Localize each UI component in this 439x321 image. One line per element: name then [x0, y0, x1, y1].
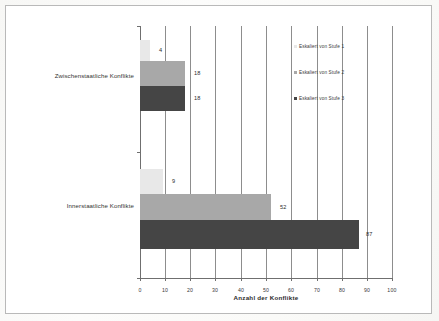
legend-label-stufe3: Eskaliert von Stufe 3	[299, 96, 344, 101]
legend-swatch-stufe1-icon	[294, 45, 297, 48]
y-axis-stub-middle	[137, 152, 140, 153]
tick-50	[266, 278, 267, 281]
tick-label-20: 20	[187, 287, 193, 293]
tick-label-60: 60	[288, 287, 294, 293]
bar-label-innerstaatliche-stufe1: 9	[172, 178, 175, 184]
legend-label-stufe1: Eskaliert von Stufe 1	[299, 44, 344, 49]
category-label-zwischenstaatliche: Zwischenstaatliche Konflikte	[14, 72, 134, 79]
tick-label-70: 70	[314, 287, 320, 293]
legend-item-stufe2: Eskaliert von Stufe 2	[294, 70, 344, 75]
tick-80	[342, 278, 343, 281]
legend-swatch-stufe2-icon	[294, 71, 297, 74]
tick-label-10: 10	[162, 287, 168, 293]
bar-innerstaatliche-stufe1	[140, 169, 163, 194]
tick-label-50: 50	[263, 287, 269, 293]
tick-label-100: 100	[387, 287, 396, 293]
tick-label-90: 90	[364, 287, 370, 293]
bar-innerstaatliche-stufe3	[140, 220, 359, 249]
legend-swatch-stufe3-icon	[294, 97, 297, 100]
x-axis-title: Anzahl der Konflikte	[140, 294, 392, 301]
legend-item-stufe3: Eskaliert von Stufe 3	[294, 96, 344, 101]
gridline-90	[367, 26, 368, 278]
tick-label-0: 0	[138, 287, 141, 293]
tick-70	[317, 278, 318, 281]
bar-zwischenstaatliche-stufe3	[140, 86, 185, 111]
tick-40	[241, 278, 242, 281]
tick-100	[392, 278, 393, 281]
tick-10	[165, 278, 166, 281]
tick-label-80: 80	[339, 287, 345, 293]
scanned-page: 4 18 18 9 52 87 Zwischenstaatliche Konfl…	[0, 0, 439, 321]
tick-90	[367, 278, 368, 281]
bar-zwischenstaatliche-stufe2	[140, 61, 185, 86]
figure-frame: 4 18 18 9 52 87 Zwischenstaatliche Konfl…	[5, 5, 432, 314]
tick-0	[140, 278, 141, 281]
y-axis-stub-upper	[137, 26, 140, 27]
tick-30	[215, 278, 216, 281]
tick-label-30: 30	[212, 287, 218, 293]
bar-label-innerstaatliche-stufe2: 52	[280, 204, 287, 210]
gridline-100	[392, 26, 393, 278]
tick-label-40: 40	[238, 287, 244, 293]
bar-label-zwischenstaatliche-stufe3: 18	[194, 95, 201, 101]
bar-innerstaatliche-stufe2	[140, 194, 271, 220]
bar-label-innerstaatliche-stufe3: 87	[366, 231, 373, 237]
bar-label-zwischenstaatliche-stufe1: 4	[159, 47, 162, 53]
legend-item-stufe1: Eskaliert von Stufe 1	[294, 44, 344, 49]
legend-label-stufe2: Eskaliert von Stufe 2	[299, 70, 344, 75]
bar-label-zwischenstaatliche-stufe2: 18	[194, 70, 201, 76]
bar-zwischenstaatliche-stufe1	[140, 40, 150, 61]
tick-60	[291, 278, 292, 281]
category-label-innerstaatliche: Innerstaatliche Konflikte	[14, 202, 134, 209]
tick-20	[190, 278, 191, 281]
